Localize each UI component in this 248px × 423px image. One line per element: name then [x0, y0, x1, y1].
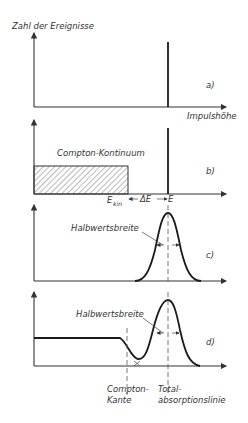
compton-continuum-label: Compton-Kontinuum	[57, 148, 145, 158]
panel-tag-a: a)	[206, 80, 215, 90]
panel-c: Halbwertsbreite c)	[34, 205, 226, 281]
minimum-marker-d	[134, 361, 140, 366]
panel-b: Compton-Kontinuum b) E kin ΔE E	[34, 120, 226, 207]
delta-e-label: ΔE	[139, 194, 152, 204]
spectrum-diagram: Zahl der Ereignisse a) Impulshöhe Compto…	[0, 0, 248, 423]
e-kin-subscript: kin	[113, 200, 122, 207]
photopeak-label-2: absorptionslinie	[158, 395, 226, 405]
panel-d: Halbwertsbreite d) Compton- Kante Total-…	[34, 292, 226, 405]
compton-continuum-area	[34, 166, 128, 194]
y-axis-label: Zahl der Ereignisse	[11, 21, 94, 31]
fwhm-label-d: Halbwertsbreite	[76, 309, 144, 319]
panel-tag-c: c)	[206, 250, 214, 260]
panel-tag-b: b)	[206, 166, 215, 176]
compton-edge-label-2: Kante	[107, 395, 131, 405]
e-label: E	[168, 194, 174, 204]
fwhm-label-c: Halbwertsbreite	[71, 223, 139, 233]
panel-tag-d: d)	[206, 337, 215, 347]
fwhm-leader-c	[142, 232, 163, 245]
photopeak-label-1: Total-	[158, 384, 181, 394]
panel-a: a) Impulshöhe	[34, 33, 237, 121]
compton-edge-label-1: Compton-	[107, 384, 149, 394]
x-axis-label: Impulshöhe	[187, 111, 237, 121]
